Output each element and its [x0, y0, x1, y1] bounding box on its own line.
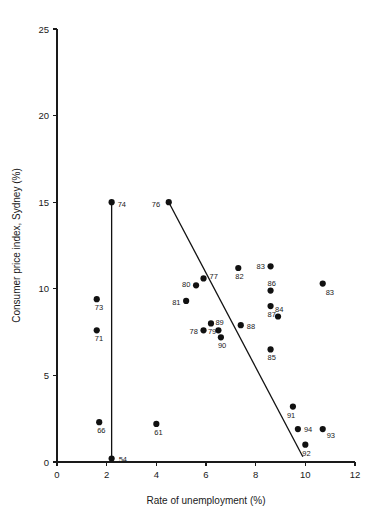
data-point-label: 85 — [268, 353, 276, 362]
data-point-label: 66 — [97, 426, 105, 435]
x-tick-label: 12 — [350, 469, 361, 480]
x-tick-label: 0 — [54, 469, 59, 480]
data-point — [320, 426, 326, 432]
data-point-label: 76 — [152, 200, 160, 209]
data-point — [218, 334, 224, 340]
x-tick-label: 8 — [253, 469, 258, 480]
data-point — [193, 282, 199, 288]
y-tick-label: 25 — [38, 24, 49, 35]
data-point-label: 80 — [182, 280, 190, 289]
data-point — [295, 426, 301, 432]
x-tick-label: 10 — [300, 469, 311, 480]
data-point — [320, 281, 326, 287]
data-point — [109, 199, 115, 205]
data-point — [267, 303, 273, 309]
data-point — [94, 296, 100, 302]
data-point-label: 93 — [327, 431, 335, 440]
y-axis: 0510152025 — [38, 24, 57, 468]
data-point — [267, 287, 273, 293]
data-point-label: 90 — [218, 341, 226, 350]
data-point — [267, 346, 273, 352]
data-point — [109, 455, 115, 461]
data-point-label: 83 — [257, 262, 265, 271]
data-point — [96, 419, 102, 425]
y-tick-label: 5 — [44, 370, 49, 381]
x-axis-title: Rate of unemployment (%) — [147, 495, 266, 506]
data-point — [183, 298, 189, 304]
y-tick-label: 20 — [38, 110, 49, 121]
data-point-label: 94 — [304, 425, 312, 434]
chart-canvas: 0510152025 024681012 5461667173747677787… — [0, 0, 376, 524]
data-point-label: 61 — [154, 428, 162, 437]
data-point-label: 77 — [210, 272, 218, 281]
data-point-label: 92 — [302, 449, 310, 458]
data-point-label: 84 — [275, 305, 283, 314]
data-point — [208, 320, 214, 326]
data-point-label: 88 — [247, 322, 255, 331]
x-tick-label: 6 — [203, 469, 208, 480]
data-point — [94, 327, 100, 333]
data-point-label: 89 — [215, 318, 223, 327]
data-point — [200, 327, 206, 333]
data-point — [153, 421, 159, 427]
y-tick-label: 0 — [44, 457, 49, 468]
data-point-label: 83 — [326, 288, 334, 297]
data-point-label: 73 — [95, 303, 103, 312]
y-tick-label: 15 — [38, 197, 49, 208]
x-axis: 024681012 — [54, 462, 360, 480]
data-point-label: 71 — [95, 334, 103, 343]
x-tick-label: 2 — [104, 469, 109, 480]
data-point-label: 86 — [268, 279, 276, 288]
data-point-label: 74 — [118, 200, 126, 209]
data-point-label: 54 — [119, 455, 127, 464]
data-point-label: 79 — [208, 327, 216, 336]
data-point — [302, 442, 308, 448]
data-point — [290, 403, 296, 409]
data-point — [200, 275, 206, 281]
data-point — [267, 263, 273, 269]
y-tick-label: 10 — [38, 283, 49, 294]
data-point-label: 87 — [268, 310, 276, 319]
data-point-label: 82 — [235, 272, 243, 281]
data-point — [235, 265, 241, 271]
data-point-label: 81 — [172, 298, 180, 307]
data-point-label: 91 — [287, 411, 295, 420]
data-point — [166, 199, 172, 205]
data-points: 5461667173747677787980818283838485868788… — [94, 199, 335, 463]
data-point — [215, 327, 221, 333]
scatter-chart: 0510152025 024681012 5461667173747677787… — [0, 0, 376, 524]
y-axis-title: Consumer price index, Sydney (%) — [11, 168, 22, 323]
data-point — [238, 322, 244, 328]
data-point-label: 78 — [190, 327, 198, 336]
x-tick-label: 4 — [154, 469, 159, 480]
